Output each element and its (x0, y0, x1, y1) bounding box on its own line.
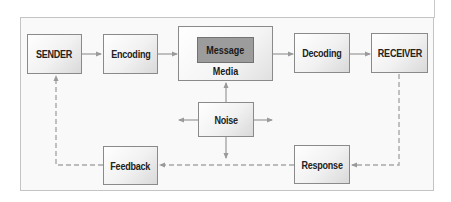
encoding-label: Encoding (111, 48, 150, 60)
response-label: Response (301, 159, 342, 171)
noise-node: Noise (198, 102, 254, 137)
sender-node: SENDER (27, 34, 82, 74)
arrow-feedback-sender (56, 76, 103, 165)
sender-label: SENDER (36, 48, 72, 60)
feedback-label: Feedback (111, 160, 151, 172)
decoding-label: Decoding (302, 47, 341, 59)
receiver-label: RECEIVER (377, 47, 421, 59)
arrow-receiver-response (352, 74, 399, 165)
noise-label: Noise (214, 114, 237, 126)
message-label: Message (206, 44, 244, 56)
encoding-node: Encoding (103, 34, 158, 74)
decoding-node: Decoding (294, 33, 350, 73)
receiver-node: RECEIVER (371, 33, 428, 73)
feedback-node: Feedback (103, 146, 158, 185)
message-node: Message (197, 37, 254, 63)
media-label: Media (213, 65, 239, 77)
media-label-wrap: Media (178, 65, 273, 77)
response-node: Response (294, 145, 350, 184)
